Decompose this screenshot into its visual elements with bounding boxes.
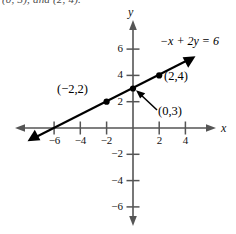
x-axis-arrow-right xyxy=(206,124,216,132)
x-tick-label-minus6: −6 xyxy=(46,134,63,146)
point-neg2-2 xyxy=(104,99,110,105)
x-axis-arrow-left xyxy=(15,124,25,132)
point-label-2-4: (2,4) xyxy=(164,69,188,84)
y-tick-label-6: 6 xyxy=(110,42,123,54)
point-0-3 xyxy=(130,85,136,91)
y-axis-name: y xyxy=(128,5,133,20)
x-tick-label-minus2: −2 xyxy=(98,134,115,146)
y-axis-arrow-down xyxy=(129,216,137,226)
x-tick-label-2: 2 xyxy=(153,134,166,146)
y-tick-label-2: 2 xyxy=(110,95,123,107)
y-axis-arrow-up xyxy=(129,20,137,30)
x-tick-label-4: 4 xyxy=(179,134,192,146)
point-2-4 xyxy=(156,72,162,78)
y-tick-label-4: 4 xyxy=(110,68,123,80)
intercept-leader-arrow xyxy=(136,90,157,110)
equation-label: −x + 2y = 6 xyxy=(160,34,219,49)
y-tick-label-minus6: −6 xyxy=(106,200,123,212)
x-axis-name: x xyxy=(221,121,226,136)
y-tick-label-minus4: −4 xyxy=(106,174,123,186)
figure-container: (0, 3), and (2, 4). xyxy=(0,0,236,234)
point-label-0-3: (0,3) xyxy=(158,104,182,119)
y-tick-label-minus2: −2 xyxy=(106,147,123,159)
x-tick-label-minus4: −4 xyxy=(72,134,89,146)
y-axis xyxy=(129,20,137,226)
point-label-neg2-2: (−2,2) xyxy=(57,82,88,97)
